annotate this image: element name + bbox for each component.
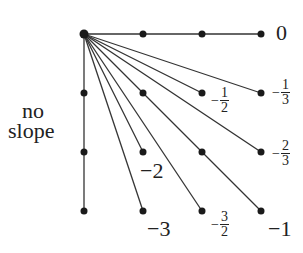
line-slope-neg-one bbox=[84, 34, 261, 211]
label-slope-0: 0 bbox=[276, 22, 287, 44]
line-slope-neg-one-third bbox=[84, 34, 261, 93]
label-slope-neg-1: −1 bbox=[268, 218, 291, 240]
line-slope-neg-two-thirds bbox=[84, 34, 261, 152]
point bbox=[199, 90, 206, 97]
point bbox=[140, 149, 147, 156]
point bbox=[140, 208, 147, 215]
slope-lines bbox=[84, 34, 261, 211]
point bbox=[81, 208, 88, 215]
point bbox=[199, 31, 206, 38]
label-slope-neg-half: − 12 bbox=[211, 86, 229, 115]
line-slope-neg-three bbox=[84, 34, 143, 211]
point bbox=[199, 149, 206, 156]
point bbox=[140, 31, 147, 38]
label-slope-neg-two-thirds: − 23 bbox=[272, 139, 290, 168]
point bbox=[199, 208, 206, 215]
point bbox=[81, 90, 88, 97]
origin-point bbox=[80, 30, 89, 39]
line-slope-neg-two bbox=[84, 34, 143, 152]
point bbox=[81, 149, 88, 156]
line-slope-neg-half bbox=[84, 34, 202, 93]
line-slope-neg-three-halves bbox=[84, 34, 202, 211]
point bbox=[258, 208, 265, 215]
point bbox=[140, 90, 147, 97]
label-no-slope-line2: slope bbox=[8, 120, 54, 142]
point bbox=[258, 90, 265, 97]
point bbox=[258, 31, 265, 38]
label-slope-neg-3: −3 bbox=[147, 218, 170, 240]
label-slope-neg-2: −2 bbox=[140, 160, 163, 182]
point bbox=[258, 149, 265, 156]
label-slope-neg-three-halves: − 32 bbox=[211, 210, 229, 239]
label-slope-neg-one-third: − 13 bbox=[272, 78, 290, 107]
